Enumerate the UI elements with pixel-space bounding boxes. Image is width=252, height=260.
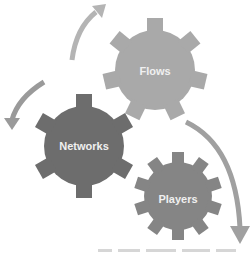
gear-label-players: Players (158, 193, 197, 205)
diagram-canvas (0, 0, 252, 260)
gear-label-networks: Networks (59, 140, 109, 152)
gears-diagram: Flows Networks Players (0, 0, 252, 260)
arrow-top-icon (72, 4, 106, 60)
figure-caption-cropped (98, 249, 248, 253)
gear-label-flows: Flows (139, 65, 170, 77)
